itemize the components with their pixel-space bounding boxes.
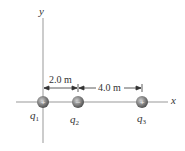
y-axis-label: y bbox=[39, 6, 44, 17]
x-axis-label: x bbox=[171, 95, 176, 106]
distance-label-2m: 2.0 m bbox=[49, 75, 72, 85]
charge-q2: − bbox=[72, 96, 84, 108]
dimension-2m bbox=[44, 84, 78, 92]
charge-label-q1: q1 bbox=[30, 110, 39, 123]
charge-label-q2: q2 bbox=[70, 114, 79, 127]
plus-sign-icon: + bbox=[41, 98, 46, 107]
minus-sign-icon: − bbox=[75, 97, 80, 107]
distance-label-4m: 4.0 m bbox=[98, 83, 121, 93]
charge-q1: + bbox=[37, 96, 49, 108]
plus-sign-icon: + bbox=[140, 98, 145, 107]
charge-q3: + bbox=[136, 96, 148, 108]
charge-label-q3: q3 bbox=[137, 113, 146, 126]
diagram-canvas: + − + bbox=[0, 0, 185, 151]
